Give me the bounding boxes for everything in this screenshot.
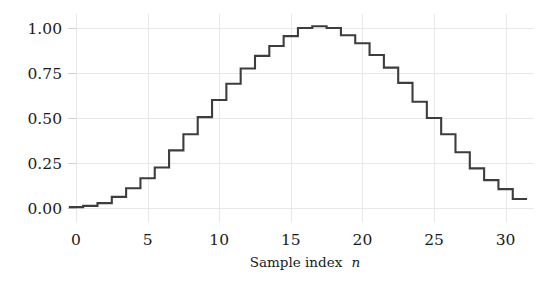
y-tick-label: 0.00 xyxy=(27,200,62,218)
figure-background xyxy=(0,0,549,284)
x-tick-label: 20 xyxy=(353,231,373,249)
x-tick-label: 25 xyxy=(424,231,444,249)
y-tick-label: 0.50 xyxy=(27,110,62,128)
x-axis-label: Sample index n xyxy=(250,254,361,270)
y-tick-label: 1.00 xyxy=(27,20,62,38)
chart-figure: 0.000.250.500.751.00 051015202530 Sample… xyxy=(0,0,549,284)
x-tick-label: 10 xyxy=(209,231,229,249)
x-tick-label: 15 xyxy=(281,231,301,249)
x-tick-label: 0 xyxy=(71,231,81,249)
y-tick-label: 0.75 xyxy=(27,65,62,83)
x-tick-label: 5 xyxy=(143,231,153,249)
window-function-step-plot: 0.000.250.500.751.00 051015202530 Sample… xyxy=(0,0,549,284)
x-tick-label: 30 xyxy=(496,231,516,249)
y-tick-label: 0.25 xyxy=(27,155,62,173)
x-axis-label-prefix: Sample index xyxy=(250,254,343,270)
x-axis-label-symbol: n xyxy=(352,254,361,270)
